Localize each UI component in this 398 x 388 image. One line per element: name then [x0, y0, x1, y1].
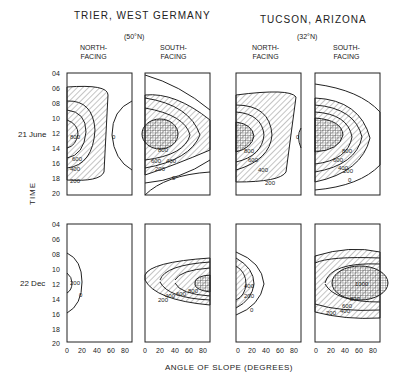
- svg-text:800: 800: [158, 147, 169, 153]
- svg-text:400: 400: [166, 158, 177, 164]
- svg-text:600: 600: [72, 156, 83, 162]
- svg-text:800: 800: [244, 148, 255, 154]
- svg-text:800: 800: [350, 296, 361, 302]
- svg-text:400: 400: [258, 167, 269, 173]
- svg-text:400: 400: [244, 283, 255, 289]
- svg-text:800: 800: [342, 148, 353, 154]
- svg-text:200: 200: [70, 280, 81, 286]
- svg-text:200: 200: [158, 297, 169, 303]
- svg-text:200: 200: [70, 178, 81, 184]
- panel-tucson-north-june: [236, 73, 301, 195]
- svg-text:200: 200: [244, 293, 255, 299]
- svg-text:200: 200: [343, 168, 354, 174]
- svg-text:800: 800: [188, 288, 199, 294]
- svg-text:200: 200: [326, 310, 337, 316]
- svg-text:1000: 1000: [355, 281, 369, 287]
- svg-text:0: 0: [112, 134, 116, 140]
- svg-text:400: 400: [70, 166, 81, 172]
- svg-text:0: 0: [79, 292, 83, 298]
- svg-text:0: 0: [296, 134, 300, 140]
- svg-text:0: 0: [250, 307, 254, 313]
- panel-trier-south-dec: [145, 224, 210, 342]
- svg-text:600: 600: [333, 157, 344, 163]
- svg-text:400: 400: [340, 308, 351, 314]
- panel-tucson-south-dec: [315, 224, 388, 342]
- svg-text:200: 200: [265, 180, 276, 186]
- svg-text:600: 600: [151, 158, 162, 164]
- svg-text:800: 800: [70, 134, 81, 140]
- svg-text:600: 600: [248, 157, 259, 163]
- svg-text:600: 600: [176, 291, 187, 297]
- svg-text:200: 200: [155, 166, 166, 172]
- panel-trier-south-june: [142, 73, 210, 195]
- contour-plots: 8006004002000 8006004002000 800600400200…: [0, 0, 398, 388]
